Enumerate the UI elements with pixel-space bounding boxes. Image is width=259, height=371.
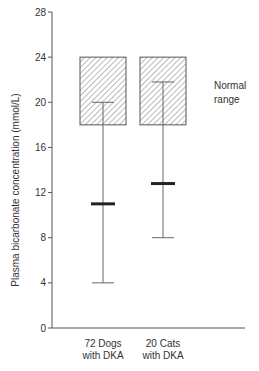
y-tick-label: 4 [40, 277, 46, 288]
normal-range-text: Normal [214, 80, 246, 91]
y-tick-label: 24 [35, 52, 47, 63]
y-tick-label: 12 [35, 187, 47, 198]
normal-range-label: Normalrange [214, 80, 246, 105]
y-tick-label: 16 [35, 142, 47, 153]
x-category-label: 72 Dogs [84, 338, 121, 349]
y-axis: 0481216202428 [35, 7, 52, 334]
y-tick-label: 0 [40, 323, 46, 334]
x-category-label: 20 Cats [146, 338, 180, 349]
y-tick-label: 28 [35, 7, 47, 18]
x-category-label: with DKA [81, 350, 123, 361]
x-axis: 72 Dogswith DKA20 Catswith DKA [52, 328, 245, 361]
y-axis-label: Plasma bicarbonate concentration (mmol/L… [10, 93, 21, 286]
y-tick-label: 20 [35, 97, 47, 108]
y-tick-label: 8 [40, 232, 46, 243]
normal-range-text: range [214, 94, 240, 105]
x-category-label: with DKA [141, 350, 183, 361]
range-chart: 0481216202428 72 Dogswith DKA20 Catswith… [0, 0, 259, 371]
normal-range-boxes [80, 57, 186, 125]
